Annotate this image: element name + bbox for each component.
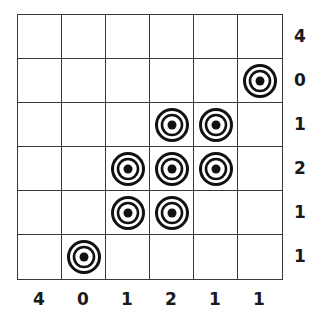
grid-cell-r3-c5[interactable]	[238, 147, 282, 191]
column-clue: 0	[61, 285, 105, 313]
row-clue: 1	[290, 102, 310, 146]
grid-cell-r0-c2[interactable]	[106, 15, 150, 59]
row-clue: 4	[290, 14, 310, 58]
grid-cell-r0-c3[interactable]	[150, 15, 194, 59]
grid-cell-r2-c5[interactable]	[238, 103, 282, 147]
bullseye-icon	[111, 152, 145, 186]
bullseye-icon	[155, 108, 189, 142]
column-clue: 1	[193, 285, 237, 313]
grid-cell-r0-c1[interactable]	[62, 15, 106, 59]
grid-cell-r3-c0[interactable]	[18, 147, 62, 191]
bullseye-icon	[243, 64, 277, 98]
grid-cell-r0-c5[interactable]	[238, 15, 282, 59]
grid-cell-r4-c2[interactable]	[106, 191, 150, 235]
grid-cell-r4-c4[interactable]	[194, 191, 238, 235]
row-clue: 1	[290, 190, 310, 234]
column-clue: 1	[237, 285, 281, 313]
grid-cell-r0-c4[interactable]	[194, 15, 238, 59]
column-clue: 1	[105, 285, 149, 313]
grid-cell-r1-c2[interactable]	[106, 59, 150, 103]
grid-cell-r4-c0[interactable]	[18, 191, 62, 235]
row-clue: 2	[290, 146, 310, 190]
grid-cell-r4-c3[interactable]	[150, 191, 194, 235]
column-clue: 4	[17, 285, 61, 313]
grid-cell-r5-c4[interactable]	[194, 235, 238, 279]
grid-cell-r3-c4[interactable]	[194, 147, 238, 191]
grid-cell-r2-c3[interactable]	[150, 103, 194, 147]
grid-cell-r2-c2[interactable]	[106, 103, 150, 147]
grid-cell-r1-c3[interactable]	[150, 59, 194, 103]
grid-cell-r2-c1[interactable]	[62, 103, 106, 147]
row-clue: 1	[290, 234, 310, 278]
grid-cell-r1-c4[interactable]	[194, 59, 238, 103]
bullseye-icon	[155, 152, 189, 186]
bullseye-icon	[111, 196, 145, 230]
column-clue: 2	[149, 285, 193, 313]
puzzle-grid	[17, 14, 283, 280]
bullseye-icon	[155, 196, 189, 230]
grid-cell-r5-c5[interactable]	[238, 235, 282, 279]
grid-cell-r1-c5[interactable]	[238, 59, 282, 103]
grid-cell-r1-c0[interactable]	[18, 59, 62, 103]
bullseye-icon	[199, 152, 233, 186]
grid-cell-r0-c0[interactable]	[18, 15, 62, 59]
grid-cell-r5-c0[interactable]	[18, 235, 62, 279]
grid-cell-r5-c2[interactable]	[106, 235, 150, 279]
bullseye-icon	[67, 240, 101, 274]
grid-cell-r4-c5[interactable]	[238, 191, 282, 235]
grid-cell-r2-c0[interactable]	[18, 103, 62, 147]
grid-cell-r4-c1[interactable]	[62, 191, 106, 235]
grid-cell-r3-c3[interactable]	[150, 147, 194, 191]
grid-cell-r3-c2[interactable]	[106, 147, 150, 191]
grid-cell-r1-c1[interactable]	[62, 59, 106, 103]
grid-cell-r5-c3[interactable]	[150, 235, 194, 279]
row-clue: 0	[290, 58, 310, 102]
grid-cell-r5-c1[interactable]	[62, 235, 106, 279]
grid-cell-r2-c4[interactable]	[194, 103, 238, 147]
grid-cell-r3-c1[interactable]	[62, 147, 106, 191]
bullseye-icon	[199, 108, 233, 142]
